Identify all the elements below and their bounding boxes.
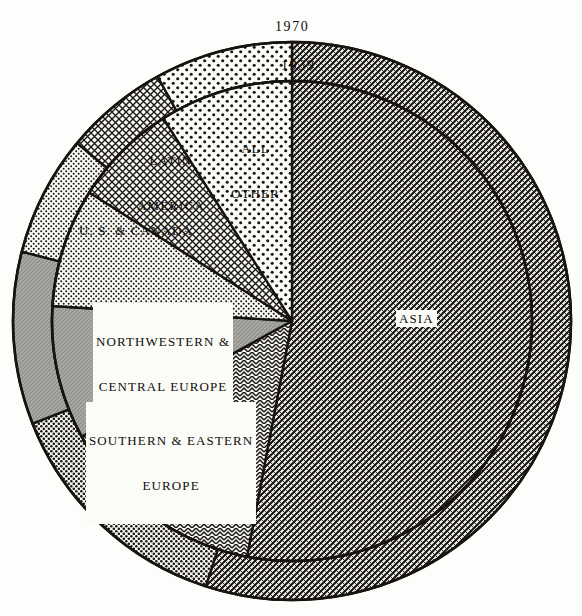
- slice-label-us-canada: U. S. & CANADA: [76, 222, 196, 239]
- slice-label-southern-eastern-europe: SOUTHERN & EASTERN EUROPE: [86, 402, 256, 524]
- slice-label-nwce-line2: CENTRAL EUROPE: [96, 379, 230, 394]
- slice-label-see-line1: SOUTHERN & EASTERN: [89, 433, 253, 448]
- year-label-1939: 1939: [278, 57, 318, 74]
- year-label-1970: 1970: [272, 18, 312, 35]
- slice-label-nwce-line1: NORTHWESTERN &: [96, 334, 230, 349]
- slice-label-all-other-line2: OTHER: [231, 186, 280, 201]
- slice-label-asia: ASIA: [396, 310, 437, 327]
- slice-label-see-line2: EUROPE: [89, 478, 253, 493]
- slice-label-latin-line1: LATIN: [137, 153, 205, 168]
- slice-label-all-other-line1: ALL: [231, 141, 280, 156]
- pie-chart-figure: 1970 1939 ASIA ALL OTHER LATIN AMERICA U…: [0, 0, 582, 616]
- slice-label-all-other: ALL OTHER: [228, 110, 283, 232]
- slice-label-latin-line2: AMERICA: [137, 198, 205, 213]
